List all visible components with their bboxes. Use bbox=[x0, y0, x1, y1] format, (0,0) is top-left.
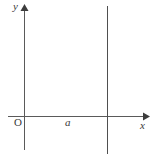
coordinate-diagram: y x O a bbox=[0, 0, 159, 161]
y-axis-arrow-icon bbox=[21, 4, 29, 11]
origin-label: O bbox=[14, 117, 22, 128]
y-axis-label: y bbox=[13, 1, 18, 12]
x-axis-label: x bbox=[140, 120, 145, 131]
point-a-label: a bbox=[65, 117, 71, 128]
axes-svg bbox=[0, 0, 159, 161]
